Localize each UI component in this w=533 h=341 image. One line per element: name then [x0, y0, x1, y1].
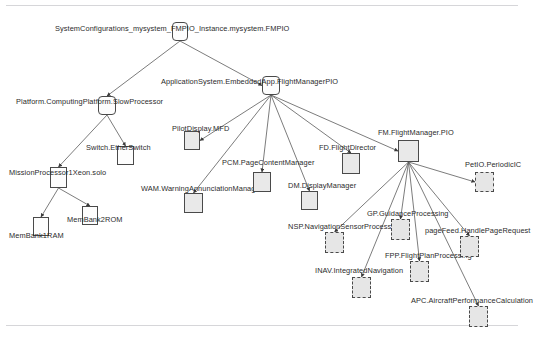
edge-platform-to-mproc	[59, 115, 108, 167]
node-label-fpp: FPP.FlightPlanProcessing	[385, 251, 472, 260]
node-label-gp: GP.GuidanceProcessing	[367, 209, 449, 218]
edge-mproc-to-membank2	[59, 188, 91, 206]
node-pagefeed[interactable]	[460, 236, 479, 257]
node-label-inav: INAV.IntegratedNavigation	[315, 266, 403, 275]
node-label-fd: FD.FlightDirector	[319, 143, 376, 152]
node-dm[interactable]	[301, 191, 318, 210]
node-label-fm: FM.FlightManager.PIO	[378, 128, 454, 137]
node-fpp[interactable]	[410, 261, 429, 282]
node-label-switch: Switch.EtherSwitch	[86, 143, 151, 152]
node-label-apc: APC.AircraftPerformanceCalculation	[411, 296, 533, 305]
node-nsp[interactable]	[325, 232, 344, 253]
node-fd[interactable]	[342, 153, 360, 174]
node-pcm[interactable]	[253, 172, 271, 192]
node-label-platform: Platform.ComputingPlatform.SlowProcessor	[16, 97, 163, 106]
node-label-appsys: ApplicationSystem.EmbeddedApp.FlightMana…	[161, 77, 338, 86]
node-inav[interactable]	[352, 277, 371, 298]
node-apc[interactable]	[469, 306, 488, 327]
node-label-membank2: MemBank2ROM	[67, 215, 122, 224]
node-label-membank1: MemBank1RAM	[9, 231, 64, 240]
node-fm[interactable]	[398, 140, 419, 162]
node-petio[interactable]	[475, 172, 494, 192]
node-label-pcm: PCM.PageContentManager	[222, 158, 314, 167]
node-pilotdisp[interactable]	[184, 131, 200, 150]
node-label-mproc: MissionProcessor1Xeon.solo	[9, 168, 106, 177]
edge-root-to-platform	[107, 41, 180, 96]
node-label-wam: WAM.WarningAnnunciationManager	[141, 184, 262, 193]
node-label-petio: PetIO.PeriodicIC	[465, 160, 521, 169]
node-label-pagefeed: pageFeed.HandlePageRequest	[425, 226, 530, 235]
node-label-dm: DM.DisplayManager	[288, 181, 356, 190]
edge-platform-to-switch	[107, 115, 126, 146]
node-label-root: SystemConfigurations_mysystem_FMPIO_Inst…	[55, 24, 289, 33]
node-label-pilotdisp: PilotDisplay.MFD	[172, 124, 229, 133]
node-gp[interactable]	[391, 219, 410, 240]
node-label-nsp: NSP.NavigationSensorProcess	[288, 222, 391, 231]
edge-mproc-to-membank1	[41, 188, 59, 217]
node-wam[interactable]	[184, 193, 203, 213]
edge-appsys-to-pilotdisp	[200, 95, 271, 141]
